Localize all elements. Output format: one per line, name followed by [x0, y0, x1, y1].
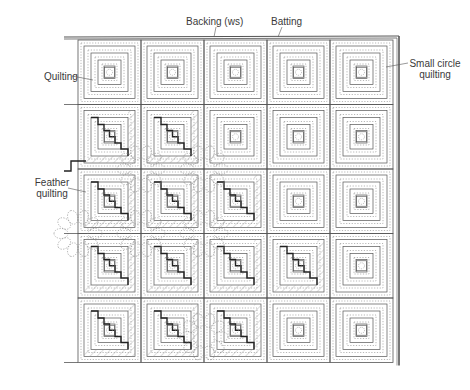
label-quilting: Quilting	[44, 71, 78, 82]
quilt-block	[267, 298, 330, 363]
label-feather-line2: quilting	[30, 188, 74, 199]
quilt-block	[141, 105, 204, 170]
quilt-block	[204, 298, 267, 363]
quilt-block	[330, 105, 393, 170]
quilt-block	[141, 298, 204, 363]
quilt-block	[267, 40, 330, 105]
quilt-block	[78, 169, 141, 234]
quilt-block	[330, 169, 393, 234]
quilt-block	[141, 40, 204, 105]
quilt-diagram: Backing (ws) Batting Quilting Small circ…	[0, 0, 470, 390]
quilt-block	[141, 169, 204, 234]
quilt-block	[78, 234, 141, 299]
quilt-block	[267, 105, 330, 170]
quilt-block	[204, 40, 267, 105]
quilt-block	[267, 234, 330, 299]
quilt-block	[204, 234, 267, 299]
label-backing: Backing (ws)	[186, 16, 243, 27]
label-batting: Batting	[271, 16, 302, 27]
label-small-circle-line1: Small circle	[405, 58, 465, 69]
label-small-circle-line2: quilting	[405, 69, 465, 80]
quilt-block	[78, 298, 141, 363]
quilt-block	[330, 298, 393, 363]
label-feather-line1: Feather	[30, 177, 74, 188]
quilt-block	[204, 169, 267, 234]
quilt-block	[267, 169, 330, 234]
quilt-block	[330, 234, 393, 299]
quilt-block	[204, 105, 267, 170]
quilt-block	[78, 105, 141, 170]
quilt-block	[330, 40, 393, 105]
quilt-block	[141, 234, 204, 299]
label-feather-quilting: Feather quilting	[30, 177, 74, 199]
label-small-circle-quilting: Small circle quilting	[405, 58, 465, 80]
quilt-block	[78, 40, 141, 105]
